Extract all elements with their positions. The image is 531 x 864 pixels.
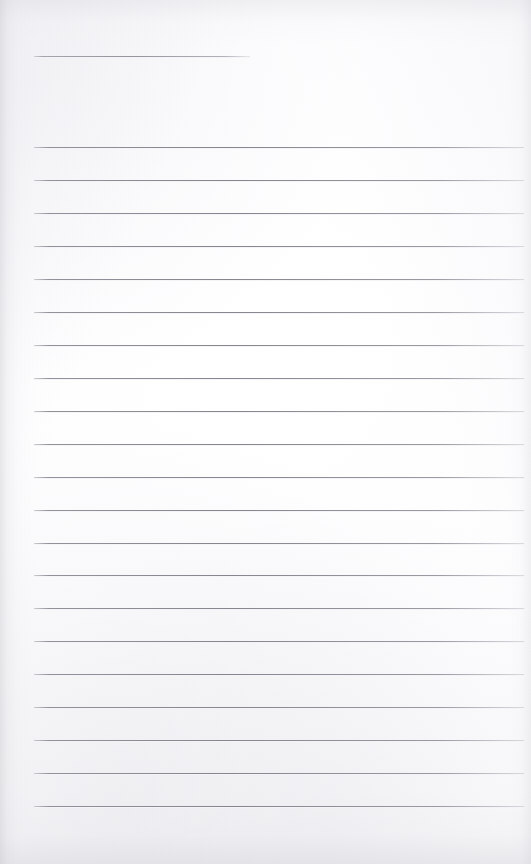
ruled-line [34, 608, 524, 609]
ruled-line [34, 740, 524, 741]
scanned-page [0, 0, 531, 864]
ruled-line [34, 477, 524, 478]
ruled-line [34, 575, 524, 576]
ruled-line [34, 444, 524, 445]
ruled-line [34, 641, 524, 642]
ruled-line [34, 707, 524, 708]
paper-background [0, 0, 531, 864]
ruled-line [34, 510, 524, 511]
ruled-line [34, 312, 524, 313]
ruled-line [34, 279, 524, 280]
ruled-line [34, 806, 524, 807]
ruled-line [34, 674, 524, 675]
ruled-line [34, 411, 524, 412]
ruled-line [34, 180, 524, 181]
header-rule [34, 56, 250, 57]
ruled-line [34, 213, 524, 214]
ruled-line [34, 543, 524, 544]
ruled-line [34, 378, 524, 379]
ruled-line [34, 147, 524, 148]
ruled-line [34, 246, 524, 247]
ruled-line [34, 345, 524, 346]
ruled-line [34, 773, 524, 774]
